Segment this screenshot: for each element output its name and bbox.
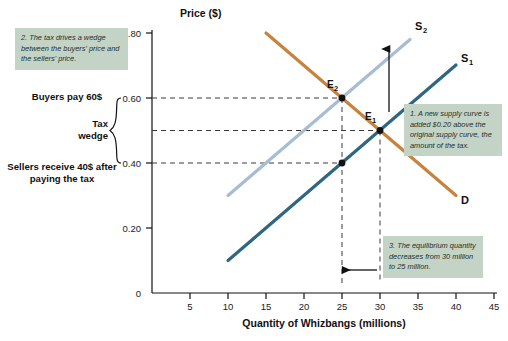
label-e2-sub: 2: [334, 84, 338, 93]
label-s1-sub: 1: [469, 58, 473, 67]
note-tax-wedge: 2. The tax drives a wedge between the bu…: [15, 28, 128, 70]
sellers-price-label-line1: Sellers receive 40$ after: [2, 161, 122, 173]
tax-wedge-brace: [110, 98, 121, 163]
buyers-price-label: Buyers pay 60$: [14, 91, 120, 103]
guide-lines: [152, 98, 380, 283]
x-tick-45: 45: [489, 301, 500, 312]
x-tick-25: 25: [337, 301, 348, 312]
point-seller-price: [339, 160, 346, 167]
x-tick-5: 5: [187, 301, 192, 312]
x-tick-10: 10: [223, 301, 234, 312]
x-tick-15: 15: [261, 301, 272, 312]
label-s1: S: [461, 52, 468, 64]
x-axis-title: Quantity of Whizbangs (millions): [242, 317, 405, 329]
sellers-price-label: Sellers receive 40$ after paying the tax: [2, 161, 122, 185]
y-tick-020: 0.20: [123, 223, 142, 234]
label-e2: E: [327, 79, 334, 90]
tax-wedge-label-line2: wedge: [58, 130, 108, 142]
label-s2-sub: 2: [423, 26, 427, 35]
y-tick-040: 0.40: [123, 158, 142, 169]
note-new-supply: 1. A new supply curve is added $0.20 abo…: [404, 104, 502, 156]
y-tick-0: 0: [136, 288, 141, 299]
y-tick-060: 0.60: [123, 93, 142, 104]
x-tick-20: 20: [299, 301, 310, 312]
supply-curve-s2: [228, 40, 410, 196]
tax-wedge-label: Tax wedge: [58, 118, 108, 142]
point-e1: [377, 127, 384, 134]
sellers-price-label-line2: paying the tax: [2, 173, 122, 185]
x-ticks: 5 10 15 20 25 30 35 40 45: [187, 293, 499, 312]
x-tick-40: 40: [451, 301, 462, 312]
label-d: D: [461, 194, 469, 206]
x-tick-35: 35: [413, 301, 424, 312]
label-s2: S: [415, 20, 422, 32]
chart-root: 0.80 0.60 0.40 0.20 0 5 10 15 20 25 30 3…: [0, 0, 508, 341]
y-axis-title: Price ($): [180, 7, 221, 19]
point-e2: [339, 95, 346, 102]
label-e1-sub: 1: [372, 116, 376, 125]
x-tick-30: 30: [375, 301, 386, 312]
tax-wedge-label-line1: Tax: [58, 118, 108, 130]
note-equilibrium-quantity: 3. The equilibrium quantity decreases fr…: [383, 236, 483, 278]
label-e1: E: [365, 111, 372, 122]
